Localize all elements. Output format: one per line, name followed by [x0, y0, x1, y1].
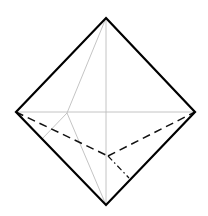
octahedron-diagram [0, 0, 208, 216]
diagram-svg [0, 0, 208, 216]
background [0, 0, 208, 216]
